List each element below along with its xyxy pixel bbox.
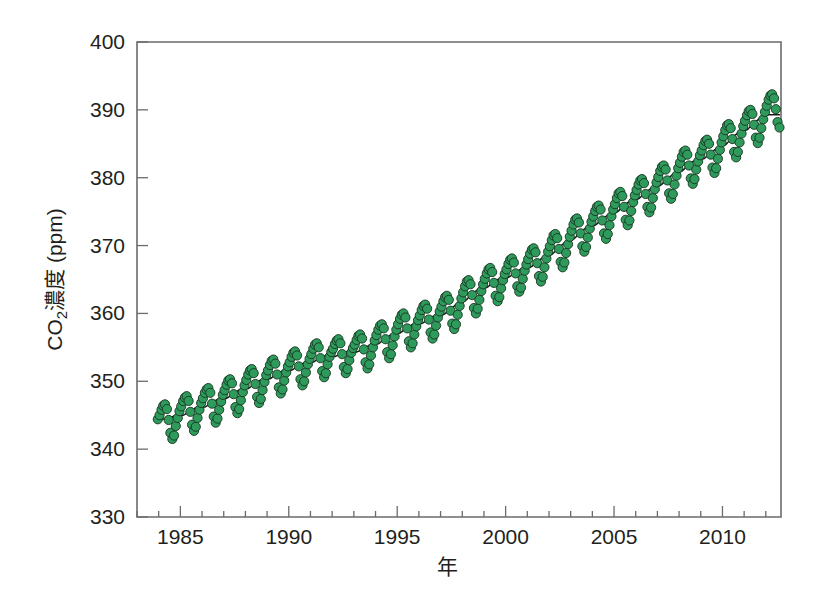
data-point xyxy=(193,413,202,422)
data-point xyxy=(639,179,648,188)
data-point xyxy=(271,359,280,368)
y-tick-label: 380 xyxy=(90,166,125,189)
data-point xyxy=(314,343,323,352)
x-tick-label: 2010 xyxy=(699,525,746,548)
data-point xyxy=(496,284,505,293)
data-point xyxy=(581,242,590,251)
data-point xyxy=(769,94,778,103)
data-point xyxy=(488,267,497,276)
y-axis-tick-labels: 330340350360370380390400 xyxy=(90,30,125,528)
data-point xyxy=(735,138,744,147)
data-point xyxy=(690,174,699,183)
data-point xyxy=(713,154,722,163)
data-point xyxy=(726,124,735,133)
y-tick-label: 400 xyxy=(90,30,125,53)
data-point xyxy=(475,295,484,304)
x-tick-label: 2005 xyxy=(591,525,638,548)
data-point xyxy=(321,369,330,378)
data-point xyxy=(236,396,245,405)
data-point xyxy=(184,396,193,405)
data-point xyxy=(733,147,742,156)
data-point xyxy=(596,205,605,214)
y-tick-label: 330 xyxy=(90,505,125,528)
data-point xyxy=(560,258,569,267)
data-point xyxy=(540,263,549,272)
data-point xyxy=(357,334,366,343)
y-axis-title: CO2濃度 (ppm) xyxy=(43,208,70,351)
x-axis-ticks xyxy=(137,506,766,517)
data-point xyxy=(451,320,460,329)
axis-frame xyxy=(137,42,781,517)
x-tick-label: 2000 xyxy=(482,525,529,548)
data-point xyxy=(215,405,224,414)
data-points xyxy=(153,90,784,444)
data-point xyxy=(583,233,592,242)
x-axis-tick-labels: 198519901995200020052010 xyxy=(157,525,746,548)
data-point xyxy=(509,258,518,267)
data-point xyxy=(444,295,453,304)
data-point xyxy=(171,421,180,430)
data-point xyxy=(771,105,780,114)
data-point xyxy=(206,388,215,397)
data-point xyxy=(227,379,236,388)
data-point xyxy=(473,304,482,313)
x-axis-title: 年 xyxy=(437,555,458,578)
data-point xyxy=(625,216,634,225)
y-tick-label: 360 xyxy=(90,301,125,324)
y-tick-label: 350 xyxy=(90,369,125,392)
data-point xyxy=(366,351,375,360)
data-point xyxy=(712,164,721,173)
data-point xyxy=(661,165,670,174)
data-point xyxy=(423,304,432,313)
data-point xyxy=(408,339,417,348)
y-tick-label: 370 xyxy=(90,234,125,257)
data-point xyxy=(748,109,757,118)
y-tick-label: 340 xyxy=(90,437,125,460)
data-point xyxy=(278,385,287,394)
plot-box xyxy=(137,42,781,517)
data-point xyxy=(704,139,713,148)
data-point xyxy=(562,248,571,257)
data-point xyxy=(605,221,614,230)
data-point xyxy=(213,414,222,423)
data-point xyxy=(162,405,171,414)
data-point xyxy=(668,189,677,198)
data-point xyxy=(466,280,475,289)
data-point xyxy=(670,180,679,189)
y-axis-ticks xyxy=(137,42,148,517)
x-tick-label: 1995 xyxy=(374,525,421,548)
data-point xyxy=(453,310,462,319)
data-point xyxy=(647,203,656,212)
data-point xyxy=(169,431,178,440)
data-point xyxy=(755,133,764,142)
data-point xyxy=(300,377,309,386)
data-point xyxy=(683,150,692,159)
data-point xyxy=(410,330,419,339)
data-point xyxy=(365,360,374,369)
data-point xyxy=(553,234,562,243)
data-point xyxy=(648,193,657,202)
data-point xyxy=(401,313,410,322)
data-point xyxy=(256,394,265,403)
data-point xyxy=(301,368,310,377)
data-point xyxy=(618,191,627,200)
data-point xyxy=(775,123,784,132)
data-point xyxy=(531,248,540,257)
data-point xyxy=(386,350,395,359)
co2-concentration-chart: 198519901995200020052010 330340350360370… xyxy=(0,0,818,601)
data-point xyxy=(538,272,547,281)
data-point xyxy=(343,364,352,373)
data-point xyxy=(191,422,200,431)
data-point xyxy=(627,206,636,215)
data-point xyxy=(495,293,504,302)
data-point xyxy=(603,229,612,238)
y-tick-label: 390 xyxy=(90,98,125,121)
x-tick-label: 1985 xyxy=(157,525,204,548)
data-point xyxy=(388,341,397,350)
data-point xyxy=(379,324,388,333)
data-point xyxy=(249,369,258,378)
data-point xyxy=(757,124,766,133)
data-point xyxy=(692,165,701,174)
x-tick-label: 1990 xyxy=(265,525,312,548)
data-point xyxy=(518,274,527,283)
